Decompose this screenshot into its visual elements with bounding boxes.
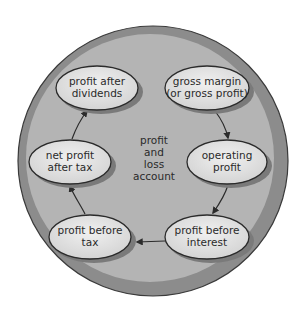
- node-label: gross margin: [173, 75, 242, 87]
- node-label: (or gross profit): [166, 87, 248, 99]
- center-label-line: loss: [144, 158, 164, 170]
- node-label: profit before: [174, 224, 239, 236]
- node-label: dividends: [72, 87, 123, 99]
- node-label: operating: [202, 149, 253, 161]
- center-label-line: account: [133, 170, 175, 182]
- node-label: profit after: [69, 75, 126, 87]
- node-label: profit before: [57, 224, 122, 236]
- node-label: tax: [82, 236, 99, 248]
- node-label: interest: [187, 236, 227, 248]
- node-label: profit: [213, 161, 241, 173]
- node-label: after tax: [48, 161, 93, 173]
- node-label: net profit: [46, 149, 94, 161]
- center-label-line: and: [144, 146, 164, 158]
- center-label-line: profit: [140, 134, 168, 146]
- profit-and-loss-cycle-diagram: gross margin (or gross profit) operating…: [0, 0, 305, 309]
